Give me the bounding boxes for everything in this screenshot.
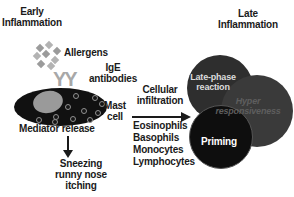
granule-icon bbox=[73, 93, 79, 99]
mast-label-line1: Mast bbox=[100, 100, 130, 111]
symptom-line1: Sneezing bbox=[46, 158, 116, 169]
early-title-line1: Early bbox=[2, 6, 62, 17]
granule-icon bbox=[70, 116, 76, 122]
early-inflammation-title: Early Inflammation bbox=[2, 6, 62, 28]
symptom-line2: runny nose bbox=[46, 169, 116, 180]
mast-cell-illustration bbox=[14, 88, 107, 126]
symptoms-label: Sneezing runny nose itching bbox=[46, 158, 116, 191]
cell-types-list: Eosinophils Basophils Monocytes Lymphocy… bbox=[133, 120, 195, 168]
allergen-diamond-icon bbox=[42, 50, 50, 58]
cell-type-item: Lymphocytes bbox=[133, 156, 195, 168]
ige-antibody-icon: YY bbox=[53, 69, 76, 89]
allergy-inflammation-diagram: Early Inflammation Late Inflammation All… bbox=[0, 0, 294, 197]
cellular-infiltration-label: Cellular infiltration bbox=[129, 84, 191, 106]
hyper-line2: responsiveness bbox=[212, 107, 284, 117]
cell-type-item: Monocytes bbox=[133, 144, 195, 156]
mediator-release-label: Mediator release bbox=[19, 123, 95, 134]
mast-cell-nucleus bbox=[31, 88, 65, 116]
late-title-line1: Late bbox=[214, 8, 282, 19]
infiltration-arrow-right-icon bbox=[132, 110, 194, 124]
allergens-label: Allergens bbox=[64, 47, 108, 58]
granule-icon bbox=[65, 104, 71, 110]
mast-label-line2: cell bbox=[100, 111, 130, 122]
ige-label-line2: antibodies bbox=[82, 73, 144, 84]
priming-label: Priming bbox=[193, 137, 245, 147]
cellular-line1: Cellular bbox=[129, 84, 191, 95]
allergen-diamond-icon bbox=[37, 60, 45, 68]
late-phase-line2: reaction bbox=[184, 83, 242, 93]
cell-type-item: Basophils bbox=[133, 132, 195, 144]
mediator-arrow-down-icon bbox=[61, 136, 75, 159]
late-phase-reaction-label: Late-phase reaction bbox=[184, 73, 242, 92]
granule-icon bbox=[92, 95, 98, 101]
mast-cell-label: Mast cell bbox=[100, 100, 130, 122]
hyper-responsiveness-label: Hyper responsiveness bbox=[212, 97, 284, 116]
granule-icon bbox=[81, 108, 87, 114]
late-title-line2: Inflammation bbox=[214, 19, 282, 30]
allergen-diamond-icon bbox=[53, 47, 61, 55]
ige-antibodies-label: IgE antibodies bbox=[82, 62, 144, 84]
ige-label-line1: IgE bbox=[82, 62, 144, 73]
symptom-line3: itching bbox=[46, 180, 116, 191]
allergen-diamond-icon bbox=[45, 41, 53, 49]
cellular-line2: infiltration bbox=[129, 95, 191, 106]
late-inflammation-title: Late Inflammation bbox=[214, 8, 282, 30]
early-title-line2: Inflammation bbox=[2, 17, 62, 28]
